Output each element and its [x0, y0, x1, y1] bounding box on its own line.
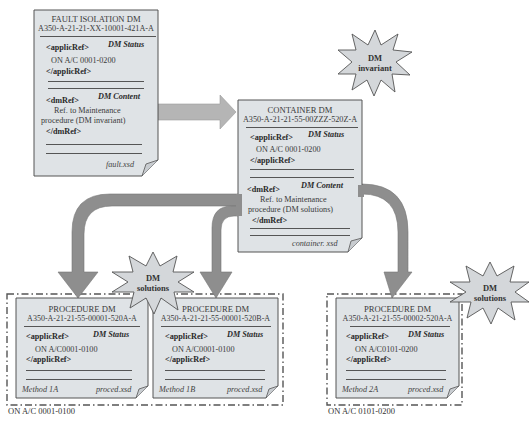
burst-solutions-1-label: DM solutions	[128, 274, 178, 294]
content-line2: procedure (DM invariant)	[41, 116, 126, 126]
applicref-open: <applicRef>	[46, 43, 89, 53]
divider	[26, 370, 132, 371]
applicref-open: <applicRef>	[346, 332, 389, 342]
divider	[346, 379, 446, 380]
group2-label: ON A/C 0101-0200	[328, 406, 395, 416]
proc-title: PROCEDURE DM	[16, 304, 148, 314]
applic-value: ON A/C 0001-0200	[51, 56, 116, 66]
schema-filename: proced.xsd	[227, 385, 262, 395]
divider	[161, 326, 271, 327]
container-dm-title: CONTAINER DM	[238, 105, 362, 115]
applicref-close: </applicRef>	[250, 156, 295, 166]
burst-invariant-label: DM invariant	[350, 54, 400, 74]
group1-label: ON A/C 0001-0100	[8, 406, 75, 416]
dm-status-label: DM Status	[108, 40, 144, 50]
applicref-open: <applicRef>	[26, 332, 69, 342]
applicref-close: </applicRef>	[165, 355, 210, 365]
dmref-close: </dmRef>	[46, 127, 81, 137]
container-dm-code: A350-A-21-21-55-00ZZZ-520Z-A	[238, 115, 362, 125]
schema-filename: fault.xsd	[106, 160, 134, 170]
dmref-open: <dmRef>	[247, 185, 280, 195]
divider	[165, 370, 265, 371]
proc-title: PROCEDURE DM	[153, 304, 278, 314]
dm-status-label: DM Status	[227, 330, 263, 340]
dm-status-label: DM Status	[408, 330, 444, 340]
applic-value: ON A/C0101-0200	[355, 345, 418, 355]
container-dm: CONTAINER DM A350-A-21-21-55-00ZZZ-520Z-…	[238, 100, 362, 252]
content-line1: Ref. to Maintenance	[54, 106, 121, 116]
content-line2: procedure (DM solutions)	[248, 205, 333, 215]
dm-status-label: DM Status	[308, 130, 344, 140]
proc-code: A350-A-21-21-55-00001-520B-A	[153, 314, 278, 324]
proc-code: A350-A-21-21-55-00001-520A-A	[16, 314, 148, 324]
burst-line2: solutions	[465, 294, 515, 304]
schema-filename: container. xsd	[292, 239, 337, 249]
divider	[40, 36, 156, 37]
applicref-close: </applicRef>	[46, 67, 91, 77]
procedure-dm-1b: PROCEDURE DM A350-A-21-21-55-00001-520B-…	[153, 298, 278, 398]
divider	[250, 228, 350, 229]
schema-filename: proced.xsd	[96, 385, 131, 395]
divider	[165, 379, 265, 380]
divider	[346, 370, 446, 371]
procedure-dm-1a: PROCEDURE DM A350-A-21-21-55-00001-520A-…	[16, 298, 148, 398]
burst-solutions-2-label: DM solutions	[465, 284, 515, 304]
fault-isolation-dm: FAULT ISOLATION DM A350-A-21-21-XX-10001…	[34, 10, 158, 176]
applicref-close: </applicRef>	[26, 355, 71, 365]
fault-dm-code: A350-A-21-21-XX-10001-421A-A	[34, 24, 158, 34]
fault-dm-title: FAULT ISOLATION DM	[34, 14, 158, 24]
applicref-open: <applicRef>	[250, 133, 293, 143]
divider	[26, 379, 132, 380]
dm-status-label: DM Status	[93, 330, 129, 340]
divider	[246, 127, 358, 128]
burst-line2: solutions	[128, 284, 178, 294]
applicref-close: </applicRef>	[346, 355, 391, 365]
arrow-container-to-proc-2a	[360, 184, 414, 300]
proc-code: A350-A-21-21-55-00002-520A-A	[336, 314, 459, 324]
arrow-fault-to-container	[158, 95, 236, 129]
divider	[48, 88, 144, 89]
divider	[48, 81, 144, 82]
divider	[46, 153, 142, 154]
divider	[250, 169, 354, 170]
arrow-container-to-proc-1b	[200, 206, 240, 298]
procedure-dm-2a: PROCEDURE DM A350-A-21-21-55-00002-520A-…	[336, 298, 459, 398]
content-line1: Ref. to Maintenance	[260, 195, 327, 205]
divider	[350, 326, 450, 327]
dmref-open: <dmRef>	[46, 96, 79, 106]
burst-line2: invariant	[350, 64, 400, 74]
method-label: Method 1B	[159, 385, 195, 395]
divider	[250, 235, 350, 236]
applic-value: ON A/C 0001-0200	[256, 145, 321, 155]
applic-value: ON A/C0001-0100	[35, 345, 98, 355]
method-label: Method 1A	[22, 385, 58, 395]
proc-title: PROCEDURE DM	[336, 304, 459, 314]
applic-value: ON A/C0001-0100	[172, 345, 235, 355]
divider	[250, 177, 354, 178]
method-label: Method 2A	[342, 385, 378, 395]
divider	[46, 144, 142, 145]
dmref-close: </dmRef>	[252, 216, 287, 226]
divider	[24, 326, 140, 327]
dm-content-label: DM Content	[98, 92, 140, 102]
schema-filename: proced.xsd	[408, 385, 443, 395]
applicref-open: <applicRef>	[165, 332, 208, 342]
dm-content-label: DM Content	[301, 181, 343, 191]
